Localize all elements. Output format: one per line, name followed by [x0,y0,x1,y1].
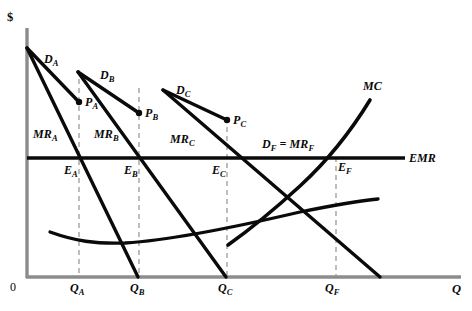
mr-c-label: MRC [170,133,195,145]
mr-b-label-sub: B [113,133,119,143]
price-point-b [136,110,142,116]
equilibrium-c-label: EC [212,164,226,176]
marginal-revenue-curve-b [78,72,226,277]
y-axis-label: $ [7,11,13,24]
diagram-canvas [0,0,472,311]
qc-label-sub: C [227,287,233,297]
equals-mrf-text: = MR [276,137,308,151]
quantity-tick-f: QF [325,282,339,294]
qb-label-sub: B [139,287,145,297]
demand-b-label: DB [100,69,114,81]
eq-b-label-text: E [124,163,132,177]
mr-c-label-text: MR [170,132,189,146]
eq-c-label-sub: C [220,169,226,179]
demand-c-label-sub: C [185,89,191,99]
quantity-tick-b: QB [130,282,144,294]
demand-b-label-sub: B [109,74,115,84]
price-c-label-sub: C [240,119,246,129]
quantity-tick-a: QA [70,282,84,294]
demand-c-label-text: D [176,83,185,97]
mr-a-label-sub: A [52,133,58,143]
mr-a-label: MRA [33,128,58,140]
price-point-a [76,99,82,105]
mr-c-label-sub: C [189,138,195,148]
equilibrium-b-label: EB [124,164,138,176]
x-axis-label: Q [452,283,461,296]
mr-b-label: MRB [94,128,119,140]
mrf-label-sub: F [308,143,314,153]
price-c-label: PC [233,114,246,126]
demand-a-label-sub: A [53,58,59,68]
marginal-revenue-curve-c [163,90,380,277]
demand-a-label-text: D [44,52,53,66]
equilibrium-a-label: EA [64,164,78,176]
eq-f-label-text: E [338,160,346,174]
eq-b-label-sub: B [132,169,138,179]
qb-label-text: Q [130,281,139,295]
qa-label-text: Q [70,281,79,295]
price-a-label: PA [85,96,98,108]
demand-b-label-text: D [100,68,109,82]
mr-b-label-text: MR [94,127,113,141]
eq-a-label-text: E [64,163,72,177]
guide-lines-group [79,70,336,276]
df-label-text: D [262,137,271,151]
price-discrimination-diagram: $ Q 0 DA DB DC MRA MRB MRC DF = MRF MC E… [0,0,472,311]
df-label-sub: F [271,143,277,153]
equilibrium-f-label: EF [338,161,352,173]
qc-label-text: Q [218,281,227,295]
price-point-c [224,117,230,123]
eq-f-label-sub: F [346,166,352,176]
df-equals-mrf-label: DF = MRF [262,138,314,150]
mr-a-label-text: MR [33,127,52,141]
quantity-tick-c: QC [218,282,232,294]
qf-label-sub: F [334,287,340,297]
price-a-label-sub: A [92,101,98,111]
price-b-label-sub: B [152,112,158,122]
demand-c-label: DC [176,84,190,96]
qa-label-sub: A [79,287,85,297]
emr-label: EMR [409,152,436,164]
price-b-label: PB [145,107,158,119]
mc-label: MC [363,80,382,92]
average-cost-curve [50,199,378,243]
qf-label-text: Q [325,281,334,295]
origin-label: 0 [10,281,16,293]
demand-a-label: DA [44,53,58,65]
eq-c-label-text: E [212,163,220,177]
eq-a-label-sub: A [72,169,78,179]
